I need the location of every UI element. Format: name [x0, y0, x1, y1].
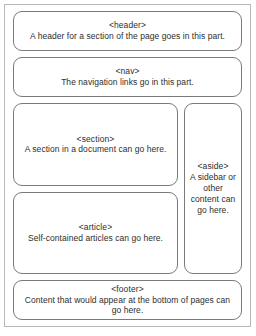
article-region: <article> Self-contained articles can go… [13, 192, 178, 275]
nav-region-description: The navigation links go in this part. [61, 77, 194, 88]
nav-region-tag: <nav> [115, 66, 139, 77]
section-region-description: A section in a document can go here. [25, 144, 167, 155]
nav-region: <nav> The navigation links go in this pa… [13, 57, 242, 97]
header-region: <header> A header for a section of the p… [13, 11, 242, 51]
main-column: <section> A section in a document can go… [13, 103, 178, 274]
footer-region-description: Content that would appear at the bottom … [20, 295, 235, 316]
header-region-description: A header for a section of the page goes … [30, 31, 225, 42]
section-region-tag: <section> [77, 134, 115, 145]
footer-region-tag: <footer> [111, 284, 143, 295]
middle-row: <section> A section in a document can go… [13, 103, 242, 274]
aside-region: <aside> A sidebar or other content can g… [184, 103, 242, 274]
section-region: <section> A section in a document can go… [13, 103, 178, 186]
aside-region-tag: <aside> [198, 161, 229, 172]
footer-region: <footer> Content that would appear at th… [13, 280, 242, 320]
header-region-tag: <header> [109, 20, 146, 31]
semantic-layout-diagram: <header> A header for a section of the p… [13, 11, 242, 320]
article-region-description: Self-contained articles can go here. [28, 233, 163, 244]
diagram-frame: <header> A header for a section of the p… [4, 4, 251, 327]
article-region-tag: <article> [79, 222, 113, 233]
aside-region-description: A sidebar or other content can go here. [188, 172, 238, 216]
